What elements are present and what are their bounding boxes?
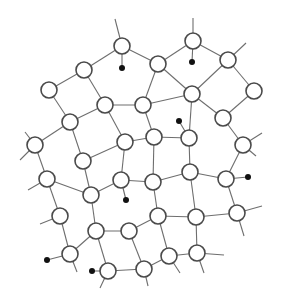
graph-node [117,134,133,150]
graph-node [150,56,166,72]
solid-dot-icon [89,268,95,274]
solid-dot-icon [176,118,182,124]
graph-node [146,129,162,145]
graph-node [97,97,113,113]
graph-node [161,248,177,264]
graph-node [41,82,57,98]
graph-node [136,261,152,277]
solid-dot-icon [123,197,129,203]
graph-node [62,246,78,262]
graph-node [88,223,104,239]
graph-node [76,62,92,78]
lattice-graph [0,0,289,307]
graph-node [52,208,68,224]
graph-node [150,208,166,224]
graph-node [188,209,204,225]
graph-node [181,130,197,146]
solid-dot-icon [245,174,251,180]
graph-nodes [27,33,262,279]
graph-node [135,97,151,113]
graph-node [62,114,78,130]
graph-node [27,137,43,153]
graph-node [145,174,161,190]
graph-node [218,171,234,187]
network-diagram [0,0,289,307]
graph-node [235,137,251,153]
graph-node [83,187,99,203]
graph-node [246,83,262,99]
graph-node [113,172,129,188]
graph-node [184,86,200,102]
graph-node [189,245,205,261]
graph-node [185,33,201,49]
graph-edges [35,41,254,271]
graph-node [114,38,130,54]
graph-node [215,110,231,126]
graph-node [229,205,245,221]
graph-node [121,223,137,239]
graph-node [182,164,198,180]
graph-node [39,171,55,187]
graph-node [220,52,236,68]
solid-dot-icon [189,59,195,65]
solid-dot-icon [44,257,50,263]
graph-node [75,153,91,169]
graph-node [100,263,116,279]
solid-dot-icon [119,65,125,71]
